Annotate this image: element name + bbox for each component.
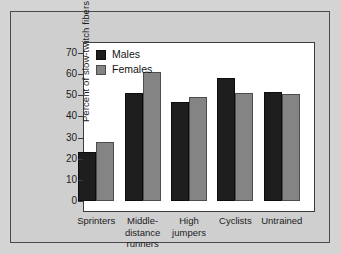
x-axis-label: Highjumpers bbox=[166, 215, 212, 238]
x-axis-label: Sprinters bbox=[73, 215, 119, 227]
y-tick-mark bbox=[78, 95, 83, 96]
bar-males bbox=[125, 93, 143, 201]
y-tick-mark bbox=[78, 159, 83, 160]
y-tick-mark bbox=[78, 138, 83, 139]
legend-label-males: Males bbox=[112, 49, 140, 60]
legend: Males Females bbox=[96, 48, 152, 78]
bar-females bbox=[189, 97, 207, 201]
bar-females bbox=[96, 142, 114, 201]
y-tick-mark bbox=[78, 201, 83, 202]
bar-males bbox=[171, 102, 189, 201]
legend-item-males: Males bbox=[96, 48, 152, 61]
bar-males bbox=[264, 92, 282, 201]
bar-females bbox=[235, 93, 253, 201]
figure: Percent of slow-twitch fibers 0102030405… bbox=[0, 0, 341, 254]
legend-swatch-females-icon bbox=[96, 65, 106, 75]
figure-frame: Percent of slow-twitch fibers 0102030405… bbox=[10, 11, 330, 243]
legend-item-females: Females bbox=[96, 63, 152, 76]
y-tick-mark bbox=[78, 53, 83, 54]
legend-label-females: Females bbox=[112, 64, 152, 75]
x-axis-label: Untrained bbox=[259, 215, 305, 227]
bar-males bbox=[217, 78, 235, 201]
y-tick-mark bbox=[78, 74, 83, 75]
x-axis-label: Cyclists bbox=[212, 215, 258, 227]
bar-females bbox=[282, 94, 300, 201]
y-tick-mark bbox=[78, 116, 83, 117]
bar-series-container bbox=[11, 12, 331, 201]
legend-swatch-males-icon bbox=[96, 50, 106, 60]
bar-females bbox=[143, 72, 161, 201]
y-tick-mark bbox=[78, 180, 83, 181]
x-axis-label: Middle-distancerunners bbox=[119, 215, 165, 250]
